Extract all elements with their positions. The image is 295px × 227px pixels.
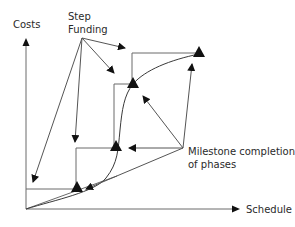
milestone-markers: [71, 46, 205, 192]
x-axis-arrow-icon: [232, 206, 240, 213]
y-axis: [23, 38, 30, 209]
step-funding-diagram: Costs Schedule Step Funding Milestone co…: [0, 0, 295, 227]
milestone-triangle-icon: [71, 181, 83, 192]
milestone-triangle-icon: [127, 77, 139, 88]
step-funding-arrows: [33, 38, 125, 182]
milestone-arrows: [86, 64, 192, 189]
x-axis: [26, 206, 240, 213]
milestone-label-line1: Milestone completion: [188, 145, 295, 158]
step-funding-label-line2: Funding: [68, 23, 108, 36]
y-axis-label: Costs: [13, 18, 40, 31]
milestone-triangle-icon: [193, 46, 205, 57]
milestone-label-line2: of phases: [188, 158, 236, 171]
step-funding-label-line1: Step: [68, 10, 91, 23]
milestone-triangle-icon: [110, 140, 122, 151]
cost-s-curve: [26, 54, 199, 209]
x-axis-label: Schedule: [246, 203, 292, 216]
y-axis-arrow-icon: [23, 38, 30, 46]
